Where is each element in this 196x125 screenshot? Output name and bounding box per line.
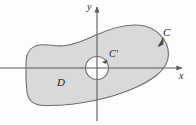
- figure-svg: [0, 0, 196, 125]
- region-label-D: D: [57, 77, 65, 88]
- figure-canvas: C C' D y x: [0, 0, 196, 125]
- inner-curve-label-C-prime: C': [109, 49, 118, 59]
- y-axis-label: y: [87, 2, 91, 12]
- inner-curve-direction-arrow: [103, 60, 108, 64]
- x-axis-label: x: [179, 71, 183, 81]
- outer-curve-label-C: C: [163, 27, 170, 38]
